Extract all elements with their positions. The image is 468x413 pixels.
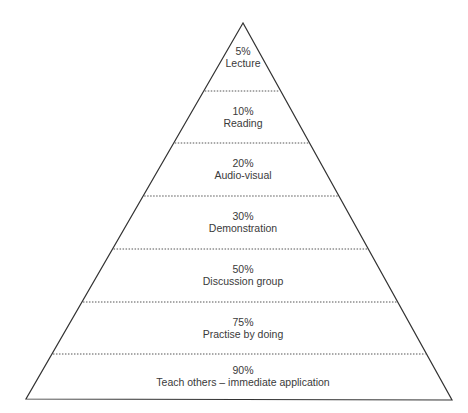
level-percent: 50% (93, 263, 393, 275)
pyramid-level: 90%Teach others – immediate application (93, 364, 393, 388)
level-label: Demonstration (93, 222, 393, 234)
level-percent: 90% (93, 364, 393, 376)
pyramid-level: 5%Lecture (93, 45, 393, 69)
pyramid-level: 10%Reading (93, 105, 393, 129)
level-label: Teach others – immediate application (93, 376, 393, 388)
pyramid-level: 20%Audio-visual (93, 157, 393, 181)
level-percent: 20% (93, 157, 393, 169)
level-percent: 10% (93, 105, 393, 117)
level-percent: 30% (93, 210, 393, 222)
level-label: Audio-visual (93, 169, 393, 181)
level-percent: 75% (93, 316, 393, 328)
pyramid-level: 50%Discussion group (93, 263, 393, 287)
level-label: Practise by doing (93, 328, 393, 340)
level-label: Lecture (93, 57, 393, 69)
pyramid-level: 30%Demonstration (93, 210, 393, 234)
pyramid-level: 75%Practise by doing (93, 316, 393, 340)
level-percent: 5% (93, 45, 393, 57)
level-label: Discussion group (93, 275, 393, 287)
level-label: Reading (93, 117, 393, 129)
